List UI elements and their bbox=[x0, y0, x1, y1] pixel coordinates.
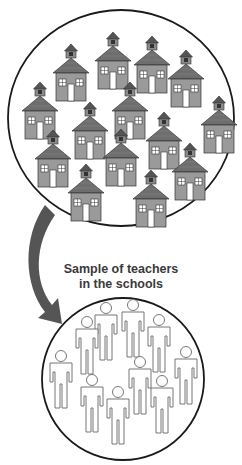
teachers-sample-circle bbox=[42, 298, 204, 460]
schools-population-circle bbox=[8, 10, 237, 227]
caption-line-1: Sample of teachers bbox=[0, 262, 242, 277]
diagram-canvas bbox=[0, 0, 242, 465]
caption-line-2: in the schools bbox=[0, 277, 242, 292]
sample-caption: Sample of teachers in the schools bbox=[0, 262, 242, 292]
